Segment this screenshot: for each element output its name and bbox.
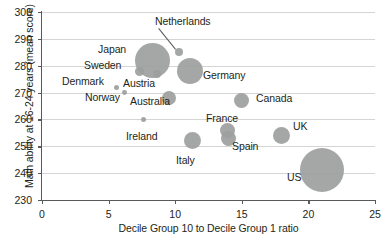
point-label-japan: Japan [98, 44, 126, 55]
bubble-sweden[interactable] [135, 67, 144, 76]
point-label-us: US [287, 172, 301, 183]
bubble-ireland[interactable] [141, 117, 146, 122]
point-label-denmark: Denmark [62, 76, 104, 87]
gridline [42, 146, 375, 147]
y-tick-label: 230 [0, 195, 32, 205]
plot-area: 0510152025 [42, 12, 375, 200]
y-tick-mark [38, 146, 42, 147]
x-tick-label: 5 [94, 208, 124, 220]
point-label-france: France [206, 113, 238, 124]
bubble-us[interactable] [300, 148, 344, 192]
y-tick-mark [38, 93, 42, 94]
x-axis-title: Decile Group 10 to Decile Group 1 ratio [42, 222, 375, 234]
y-tick-label: 280 [0, 61, 32, 71]
x-tick-label: 10 [160, 208, 190, 220]
point-label-austria: Austria [123, 78, 155, 89]
x-tick-mark [175, 200, 176, 204]
x-tick-label: 0 [27, 208, 57, 220]
gridline [42, 39, 375, 40]
point-label-australia: Australia [130, 96, 170, 107]
point-label-germany: Germany [203, 70, 245, 81]
point-label-netherlands: Netherlands [155, 16, 211, 27]
y-tick-label: 240 [0, 168, 32, 178]
x-tick-label: 20 [293, 208, 323, 220]
y-tick-mark [38, 66, 42, 67]
point-label-norway: Norway [85, 92, 120, 103]
y-tick-label: 290 [0, 34, 32, 44]
bubble-chart: Math ability at 16-24 years (mean score)… [0, 0, 389, 241]
x-tick-mark [42, 200, 43, 204]
point-label-uk: UK [293, 121, 307, 132]
x-tick-mark [109, 200, 110, 204]
x-axis-line [41, 200, 376, 201]
bubble-canada[interactable] [234, 93, 249, 108]
bubble-germany[interactable] [177, 58, 203, 84]
y-tick-label: 250 [0, 141, 32, 151]
bubble-denmark[interactable] [114, 85, 119, 90]
point-label-spain: Spain [232, 141, 258, 152]
bubble-netherlands[interactable] [175, 48, 183, 56]
x-tick-mark [308, 200, 309, 204]
y-tick-mark [38, 119, 42, 120]
point-label-canada: Canada [256, 93, 292, 104]
y-tick-mark [38, 39, 42, 40]
y-tick-label: 300 [0, 7, 32, 17]
point-label-ireland: Ireland [126, 131, 157, 142]
x-tick-mark [242, 200, 243, 204]
point-label-italy: Italy [176, 155, 195, 166]
gridline [42, 12, 375, 13]
point-label-sweden: Sweden [84, 60, 121, 71]
y-tick-mark [38, 173, 42, 174]
x-tick-mark [375, 200, 376, 204]
y-tick-label: 270 [0, 88, 32, 98]
x-tick-label: 25 [360, 208, 389, 220]
bubble-norway[interactable] [122, 90, 127, 95]
y-tick-mark [38, 12, 42, 13]
y-tick-label: 260 [0, 114, 32, 124]
x-tick-label: 15 [227, 208, 257, 220]
bubble-uk[interactable] [273, 127, 290, 144]
